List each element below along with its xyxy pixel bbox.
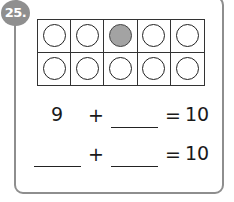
counter-empty (43, 24, 66, 47)
counter-empty (176, 57, 199, 80)
counter-empty (43, 57, 66, 80)
counter-empty (176, 24, 199, 47)
equation-1: 9 + = 10 (0, 103, 234, 133)
counter-filled (109, 24, 132, 47)
plus-sign: + (88, 143, 104, 165)
answer-blank[interactable] (34, 166, 81, 167)
total: 10 (185, 142, 209, 164)
ten-frame-cell (104, 53, 137, 86)
ten-frame-cell (138, 53, 171, 86)
answer-blank[interactable] (111, 166, 158, 167)
ten-frame (37, 19, 205, 86)
answer-blank[interactable] (111, 127, 158, 128)
ten-frame-cell (171, 20, 204, 53)
counter-empty (142, 24, 165, 47)
total: 10 (185, 103, 209, 125)
problem-number-badge: 25. (1, 0, 30, 26)
counter-empty (76, 57, 99, 80)
ten-frame-cell (104, 20, 137, 53)
counter-empty (76, 24, 99, 47)
ten-frame-cell (38, 20, 71, 53)
ten-frame-cell (171, 53, 204, 86)
ten-frame-cell (38, 53, 71, 86)
equals-sign: = (165, 143, 181, 165)
counter-empty (109, 57, 132, 80)
counter-empty (142, 57, 165, 80)
equation-2: + = 10 (0, 142, 234, 172)
addend-1: 9 (51, 103, 63, 125)
plus-sign: + (88, 104, 104, 126)
ten-frame-cell (71, 53, 104, 86)
ten-frame-cell (71, 20, 104, 53)
ten-frame-cell (138, 20, 171, 53)
equals-sign: = (165, 104, 181, 126)
